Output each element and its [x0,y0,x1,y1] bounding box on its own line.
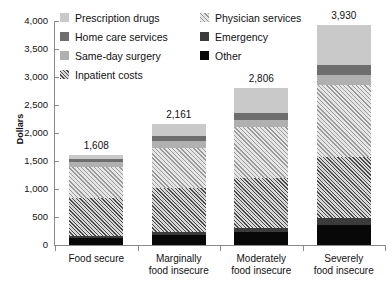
y-axis-tick-label: 3,500 [8,44,48,53]
x-axis-category-label: Severelyfood insecure [303,253,385,277]
y-axis-tick-label: 4,000 [8,16,48,25]
x-axis-label-line: food insecure [220,265,302,277]
bar-segment [317,225,371,245]
bar-segment [152,235,206,245]
y-axis-tick-label: 1,000 [8,184,48,193]
bar-segment [317,85,371,157]
legend-item[interactable]: Home care services [60,27,195,46]
x-axis-label-line: food insecure [138,265,220,277]
bar-segment [69,167,123,197]
legend-item[interactable]: Inpatient costs [60,65,195,84]
bar-total-label: 2,806 [216,73,306,84]
x-axis-tick [138,245,139,251]
bar-stack [234,88,288,245]
bar-segment [152,148,206,188]
x-axis-category-label: Marginallyfood insecure [138,253,220,277]
bar-segment [69,238,123,245]
legend-label: Emergency [215,31,268,43]
legend-label: Other [215,50,241,62]
legend-swatch-icon [60,70,69,79]
y-axis-tick-label: 2,500 [8,100,48,109]
bar-total-label: 1,608 [51,140,141,151]
legend-label: Physician services [215,12,301,24]
legend-swatch-icon [200,51,209,60]
y-axis-tick-label: 1,500 [8,156,48,165]
x-axis-label-line: Food secure [55,253,137,265]
x-axis-tick [303,245,304,251]
y-axis-tick-label: 500 [8,212,48,221]
bar-segment [234,232,288,245]
bar-segment [234,127,288,177]
legend-column-left: Prescription drugsHome care servicesSame… [60,8,195,84]
legend-swatch-icon [200,13,209,22]
y-axis-tick-label: 3,000 [8,72,48,81]
legend-label: Home care services [75,31,168,43]
x-axis-label-line: Severely [303,253,385,265]
x-axis-category-label: Moderatelyfood insecure [220,253,302,277]
legend-label: Same-day surgery [75,50,161,62]
legend-item[interactable]: Other [200,46,350,65]
bar-stack [69,155,123,245]
bar-segment [317,218,371,225]
x-axis-tick [385,245,386,251]
x-axis-label-line: Moderately [220,253,302,265]
stacked-bar-chart: Dollars 05001,0001,5002,0002,5003,0003,5… [0,0,392,299]
x-axis-category-label: Food secure [55,253,137,265]
y-axis-tick-label: 2,000 [8,128,48,137]
bar-segment [317,65,371,75]
bar-segment [234,120,288,128]
bar-segment [317,75,371,85]
bar-segment [69,198,123,236]
x-axis-tick [55,245,56,251]
bar-segment [152,188,206,232]
legend-item[interactable]: Physician services [200,8,350,27]
x-axis-label-line: food insecure [303,265,385,277]
legend-column-right: Physician servicesEmergencyOther [200,8,350,65]
legend-item[interactable]: Emergency [200,27,350,46]
legend-swatch-icon [60,51,69,60]
bar-segment [152,124,206,136]
legend-item[interactable]: Same-day surgery [60,46,195,65]
legend-label: Prescription drugs [75,12,160,24]
x-axis-labels: Food secureMarginallyfood insecureModera… [55,253,385,293]
x-axis-tick [220,245,221,251]
bar-stack [152,124,206,245]
legend-item[interactable]: Prescription drugs [60,8,195,27]
legend-swatch-icon [60,13,69,22]
bar-segment [234,178,288,228]
bar-total-label: 2,161 [134,109,224,120]
bar-segment [317,157,371,218]
x-axis-label-line: Marginally [138,253,220,265]
legend-label: Inpatient costs [75,69,143,81]
legend-swatch-icon [60,32,69,41]
y-axis-tick-label: 0 [8,240,48,249]
legend-swatch-icon [200,32,209,41]
bar-segment [234,88,288,113]
